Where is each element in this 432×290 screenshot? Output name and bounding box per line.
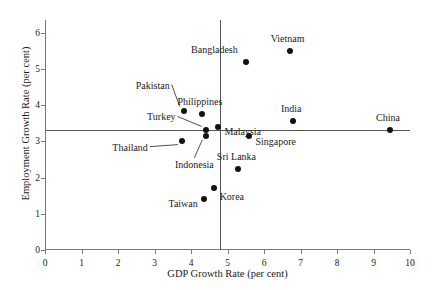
x-tick-label: 10 (405, 258, 415, 268)
leader-line (194, 140, 202, 158)
y-tick-mark (41, 250, 45, 251)
x-tick-label: 0 (43, 258, 48, 268)
data-point-label: Philippines (177, 96, 222, 107)
data-point[interactable] (290, 118, 296, 124)
mean-gdp-growth (220, 20, 221, 250)
y-tick-mark (41, 141, 45, 142)
data-point-label: Sri Lanka (217, 150, 256, 161)
data-point[interactable] (246, 133, 252, 139)
x-tick-mark (82, 250, 83, 254)
y-axis-line (45, 20, 46, 250)
scatter-plot-figure: 012345678910 0123456 VietnamBangladeshPa… (0, 0, 432, 290)
x-tick-mark (155, 250, 156, 254)
leader-line (178, 116, 202, 126)
x-tick-mark (228, 250, 229, 254)
data-point-label: Pakistan (136, 79, 170, 90)
data-point-label: India (281, 103, 302, 114)
y-tick-label: 3 (30, 136, 40, 146)
data-point[interactable] (287, 48, 293, 54)
x-tick-label: 4 (189, 258, 194, 268)
y-tick-mark (41, 105, 45, 106)
y-tick-mark (41, 33, 45, 34)
y-tick-mark (41, 69, 45, 70)
x-tick-label: 7 (298, 258, 303, 268)
leader-line (150, 145, 178, 147)
x-tick-label: 1 (79, 258, 84, 268)
x-tick-mark (337, 250, 338, 254)
y-tick-label: 6 (30, 28, 40, 38)
data-point-label: China (376, 112, 400, 123)
x-tick-mark (191, 250, 192, 254)
x-tick-label: 5 (225, 258, 230, 268)
x-tick-mark (374, 250, 375, 254)
data-point[interactable] (387, 127, 393, 133)
x-tick-label: 8 (335, 258, 340, 268)
data-point[interactable] (235, 166, 241, 172)
data-point[interactable] (201, 196, 207, 202)
data-point[interactable] (243, 59, 249, 65)
data-point-label: Taiwan (168, 197, 197, 208)
data-point-label: Korea (220, 191, 244, 202)
data-point-label: Singapore (255, 135, 296, 146)
x-tick-mark (301, 250, 302, 254)
x-tick-mark (45, 250, 46, 254)
x-tick-mark (410, 250, 411, 254)
data-point-label: Bangladesh (191, 43, 238, 54)
y-tick-label: 4 (30, 100, 40, 110)
y-tick-label: 5 (30, 64, 40, 74)
data-point-label: Indonesia (175, 158, 214, 169)
y-tick-mark (41, 178, 45, 179)
data-point[interactable] (181, 108, 187, 114)
data-point[interactable] (199, 111, 205, 117)
data-point-label: Thailand (112, 141, 148, 152)
data-point[interactable] (203, 133, 209, 139)
y-tick-label: 0 (30, 245, 40, 255)
x-tick-mark (264, 250, 265, 254)
x-tick-label: 6 (262, 258, 267, 268)
x-tick-label: 3 (152, 258, 157, 268)
x-axis-title: GDP Growth Rate (per cent) (45, 268, 410, 279)
x-tick-mark (118, 250, 119, 254)
data-point[interactable] (179, 138, 185, 144)
plot-area: 012345678910 0123456 VietnamBangladeshPa… (45, 20, 410, 250)
data-point[interactable] (211, 185, 217, 191)
data-point-label: Turkey (147, 111, 176, 122)
x-tick-label: 9 (371, 258, 376, 268)
y-axis-title: Employment Growth Rate (per cent) (20, 16, 31, 231)
data-point-label: Vietnam (271, 32, 305, 43)
y-tick-label: 1 (30, 209, 40, 219)
y-tick-mark (41, 214, 45, 215)
y-tick-label: 2 (30, 173, 40, 183)
x-tick-label: 2 (116, 258, 121, 268)
